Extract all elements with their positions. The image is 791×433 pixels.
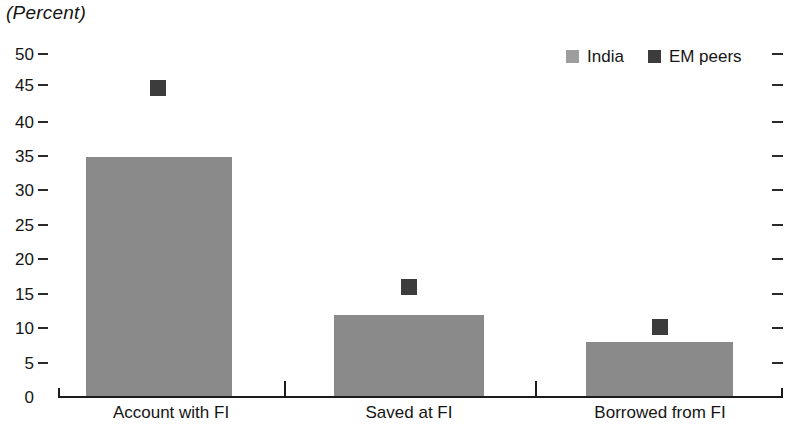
legend-swatch-india-icon	[566, 50, 579, 63]
y-tick-mark-right-10	[772, 327, 783, 329]
y-tick-mark-10	[38, 327, 48, 329]
y-tick-mark-right-25	[772, 224, 783, 226]
y-tick-label-20: 20	[0, 251, 34, 268]
y-tick-mark-45	[38, 84, 48, 86]
y-tick-mark-right-15	[772, 293, 783, 295]
y-tick-mark-15	[38, 293, 48, 295]
y-tick-mark-25	[38, 224, 48, 226]
category-label-borrowed-from-fi: Borrowed from FI	[594, 404, 725, 423]
legend-swatch-em-peers-icon	[648, 50, 661, 63]
category-label-saved-at-fi: Saved at FI	[366, 404, 453, 423]
y-tick-label-15: 15	[0, 286, 34, 303]
legend-label-em-peers: EM peers	[669, 48, 742, 65]
y-axis-right-stub	[781, 388, 783, 398]
y-tick-mark-right-20	[772, 258, 783, 260]
bar-saved-at-fi[interactable]	[334, 315, 484, 397]
y-tick-mark-right-45	[772, 84, 783, 86]
y-tick-label-40: 40	[0, 114, 34, 131]
y-tick-mark-40	[38, 121, 48, 123]
y-tick-mark-50	[38, 53, 48, 55]
marker-em-peers-saved-at-fi[interactable]	[401, 279, 417, 295]
chart-title: (Percent)	[6, 2, 86, 24]
y-tick-mark-right-30	[772, 189, 783, 191]
y-tick-mark-20	[38, 258, 48, 260]
y-tick-label-35: 35	[0, 148, 34, 165]
y-tick-label-50: 50	[0, 46, 34, 63]
y-tick-label-30: 30	[0, 182, 34, 199]
y-tick-mark-right-40	[772, 121, 783, 123]
y-axis-origin-stub	[58, 388, 60, 398]
y-tick-mark-5	[38, 362, 48, 364]
chart-legend: India EM peers	[566, 48, 742, 65]
y-tick-label-25: 25	[0, 217, 34, 234]
category-separator-1	[284, 381, 286, 397]
legend-entry-india[interactable]: India	[566, 48, 624, 65]
chart-plot-area: (Percent) 50 45 40 35 30 25 20 15 10 5 0…	[0, 0, 791, 433]
x-axis-line	[58, 396, 783, 398]
bar-borrowed-from-fi[interactable]	[586, 342, 733, 397]
y-tick-mark-right-50	[772, 53, 783, 55]
legend-entry-em-peers[interactable]: EM peers	[648, 48, 742, 65]
marker-em-peers-account-with-fi[interactable]	[150, 80, 166, 96]
category-label-account-with-fi: Account with FI	[113, 404, 229, 423]
legend-label-india: India	[587, 48, 624, 65]
category-separator-2	[535, 381, 537, 397]
y-tick-mark-right-35	[772, 155, 783, 157]
bar-account-with-fi[interactable]	[86, 157, 232, 397]
y-tick-label-5: 5	[0, 355, 34, 372]
y-tick-mark-right-5	[772, 362, 783, 364]
marker-em-peers-borrowed-from-fi[interactable]	[652, 319, 668, 335]
y-tick-mark-35	[38, 155, 48, 157]
y-tick-label-0: 0	[0, 389, 34, 406]
y-tick-label-10: 10	[0, 320, 34, 337]
y-tick-label-45: 45	[0, 77, 34, 94]
y-tick-mark-30	[38, 189, 48, 191]
